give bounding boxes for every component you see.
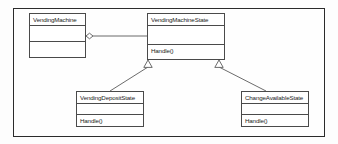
class-box-change-available-state[interactable]: ChangeAvailableState Handle() [241, 91, 309, 127]
class-box-vending-deposit-state[interactable]: VendingDepositState Handle() [76, 91, 144, 127]
class-operation-label: Handle() [245, 116, 308, 125]
class-attribute-compartment [148, 26, 224, 45]
class-operation-compartment: Handle() [242, 115, 308, 126]
generalization-deposit [110, 60, 152, 91]
class-box-vending-machine-state[interactable]: VendingMachineState Handle() [147, 13, 225, 60]
generalization-change [215, 60, 266, 91]
class-attribute-compartment [242, 104, 308, 115]
class-operation-compartment: Handle() [77, 115, 143, 126]
class-operation-compartment: Handle() [148, 45, 224, 59]
class-operation-label: Handle() [80, 116, 143, 125]
class-name-label: ChangeAvailableState [245, 93, 308, 102]
aggregation-machine-state [86, 33, 147, 39]
class-name-compartment: VendingDepositState [77, 92, 143, 104]
class-operation-compartment [30, 42, 85, 57]
class-name-label: VendingDepositState [80, 93, 143, 102]
hollow-diamond-icon [86, 33, 93, 39]
generalization-line-left [110, 67, 148, 91]
hollow-triangle-icon-right [215, 60, 223, 67]
class-name-compartment: ChangeAvailableState [242, 92, 308, 104]
class-name-compartment: VendingMachine [30, 14, 85, 26]
class-name-label: VendingMachineState [151, 15, 224, 24]
generalization-line-right [219, 67, 266, 91]
class-attribute-compartment [77, 104, 143, 115]
class-name-compartment: VendingMachineState [148, 14, 224, 26]
hollow-triangle-icon-left [144, 60, 152, 67]
class-box-vending-machine[interactable]: VendingMachine [29, 13, 86, 58]
class-operation-label: Handle() [151, 46, 224, 55]
class-name-label: VendingMachine [33, 15, 85, 24]
class-attribute-compartment [30, 26, 85, 42]
diagram-canvas: VendingMachine VendingMachineState Handl… [0, 0, 338, 144]
